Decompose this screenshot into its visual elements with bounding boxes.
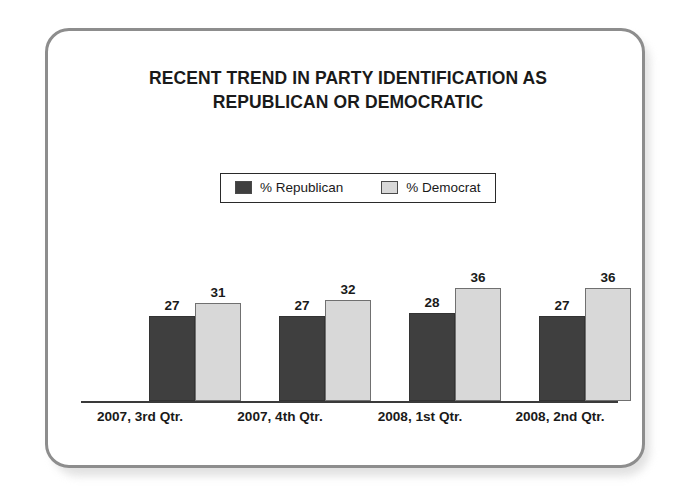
legend-item-republican: % Republican [235,180,343,195]
bar-value-label: 36 [455,270,501,285]
legend-swatch-republican-icon [235,181,252,194]
legend-label-republican: % Republican [260,180,343,195]
bar-republican [149,316,195,401]
bar-value-label: 27 [539,298,585,313]
bar-republican [409,313,455,401]
bar-republican [279,316,325,401]
bar-value-label: 32 [325,282,371,297]
bar-group: 2731 [149,271,241,401]
bar-value-label: 27 [149,298,195,313]
bar-democrat [585,288,631,401]
category-label: 2008, 2nd Qtr. [490,409,630,424]
bar-democrat [325,300,371,400]
x-axis-category-labels: 2007, 3rd Qtr.2007, 4th Qtr.2008, 1st Qt… [70,409,630,424]
chart-page: RECENT TREND IN PARTY IDENTIFICATION AS … [0,0,690,504]
chart-legend: % Republican % Democrat [220,173,496,203]
chart-title-line-2: REPUBLICAN OR DEMOCRATIC [48,91,648,115]
page-title: RECENT TREND IN PARTY IDENTIFICATION AS … [48,67,648,114]
bar-group: 2836 [409,271,501,401]
category-label: 2007, 4th Qtr. [210,409,350,424]
legend-label-democrat: % Democrat [406,180,480,195]
bar-value-label: 27 [279,298,325,313]
category-label: 2007, 3rd Qtr. [70,409,210,424]
legend-swatch-democrat-icon [381,181,398,194]
plot-area: 2731273228362736 [81,271,618,403]
bar-democrat [195,303,241,400]
bar-republican [539,316,585,401]
bar-democrat [455,288,501,401]
bar-value-label: 36 [585,270,631,285]
chart-card: RECENT TREND IN PARTY IDENTIFICATION AS … [45,28,645,468]
bar-group: 2732 [279,271,371,401]
bar-value-label: 31 [195,285,241,300]
bar-group: 2736 [539,271,631,401]
bar-value-label: 28 [409,295,455,310]
legend-item-democrat: % Democrat [381,180,480,195]
x-axis-line [81,401,618,404]
chart-title-line-1: RECENT TREND IN PARTY IDENTIFICATION AS [149,68,547,88]
category-label: 2008, 1st Qtr. [350,409,490,424]
